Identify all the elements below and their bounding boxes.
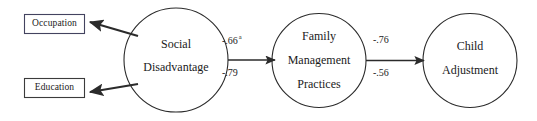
path-coefficient-value: -.66 [222, 35, 238, 46]
path-arrow-to-education [90, 84, 138, 92]
path-arrow-to-occupation [90, 22, 138, 36]
latent-circle-social-disadvantage [124, 8, 228, 112]
path-coefficient-social-family-1: -.66a [222, 34, 241, 46]
diagram-canvas [0, 0, 537, 121]
path-coefficient-superscript: a [239, 33, 242, 40]
observed-box-occupation [25, 15, 85, 34]
path-coefficient-family-child-2: -.56 [373, 67, 389, 78]
latent-circle-family-management-practices [272, 14, 366, 108]
path-diagram: Occupation Education Social Disadvantage… [0, 0, 537, 121]
latent-circle-child-adjustment [423, 14, 517, 108]
path-coefficient-social-family-2: -.79 [222, 67, 238, 78]
observed-box-education [25, 79, 85, 98]
path-coefficient-family-child-1: -.76 [373, 34, 389, 45]
